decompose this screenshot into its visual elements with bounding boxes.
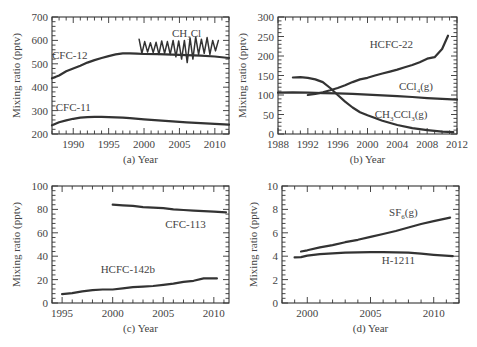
panel-b: 1988199219962000200420082012050100150200…: [236, 11, 468, 166]
plot-frame: [52, 186, 229, 303]
y-tick-label: 10: [267, 180, 279, 192]
series-label-cfc-11: CFC-11: [56, 101, 91, 113]
x-tick-label: 2012: [446, 138, 468, 150]
series-line-cfc-113: [113, 205, 226, 213]
x-tick-label: 1990: [62, 138, 85, 150]
y-tick-label: 4: [273, 250, 279, 262]
y-tick-label: 60: [37, 227, 49, 239]
x-tick-label: 2005: [168, 138, 191, 150]
x-tick-label: 2005: [152, 307, 175, 319]
panel-a: 19901995200020052010200300400500600700(a…: [10, 11, 229, 166]
series-label-hcfc-142b: HCFC-142b: [101, 263, 156, 275]
y-tick-label: 40: [37, 250, 49, 262]
panel-d: 2000200520100246810(d) YearMixing ratio …: [247, 180, 459, 335]
y-axis-label: Mixing ratio (pptv): [236, 33, 249, 118]
y-tick-label: 200: [258, 50, 275, 62]
series-label-cfc-12: CFC-12: [52, 49, 87, 61]
y-tick-label: 8: [273, 203, 279, 215]
y-axis-label: Mixing ratio (pptv): [10, 202, 23, 287]
x-tick-label: 1992: [297, 138, 319, 150]
y-tick-label: 0: [43, 297, 49, 309]
x-tick-label: 2008: [416, 138, 439, 150]
series-label-ccl4-g: CCl4(g): [399, 80, 433, 95]
series-label-sf6-g: SF6(g): [389, 206, 418, 221]
series-label-cfc-113: CFC-113: [165, 218, 206, 230]
x-tick-label: 2010: [204, 138, 227, 150]
panel-c: 1995200020052010020406080100(c) YearMixi…: [10, 180, 229, 335]
x-axis-label: (a) Year: [123, 153, 158, 166]
x-tick-label: 2000: [357, 138, 380, 150]
x-axis-label: (d) Year: [353, 322, 389, 335]
x-tick-label: 2010: [423, 307, 446, 319]
series-label-h-1211: H-1211: [382, 254, 415, 266]
y-tick-label: 2: [273, 274, 279, 286]
x-tick-label: 2000: [296, 307, 319, 319]
plot-frame: [282, 186, 459, 303]
series-line-hcfc-142b: [62, 278, 217, 294]
y-tick-label: 400: [32, 81, 49, 93]
x-tick-label: 2000: [133, 138, 156, 150]
y-tick-label: 80: [37, 203, 49, 215]
x-tick-label: 1996: [327, 138, 350, 150]
series-line-ccl4-g: [278, 92, 457, 99]
y-tick-label: 300: [258, 11, 275, 23]
y-tick-label: 0: [273, 297, 279, 309]
y-tick-label: 20: [37, 274, 49, 286]
x-tick-label: 2005: [360, 307, 383, 319]
y-tick-label: 500: [32, 58, 49, 70]
y-axis-label: Mixing ratio (pptv): [247, 202, 260, 287]
x-tick-label: 1995: [98, 138, 121, 150]
x-axis-label: (b) Year: [350, 153, 386, 166]
x-tick-label: 1995: [51, 307, 74, 319]
series-line-cfc-11: [52, 117, 229, 125]
plot-frame: [52, 17, 229, 134]
series-label-hcfc-22: HCFC-22: [370, 38, 413, 50]
y-tick-label: 600: [32, 34, 49, 46]
y-axis-label: Mixing ratio (pptv): [10, 33, 23, 118]
y-tick-label: 100: [32, 180, 49, 192]
x-tick-label: 2004: [386, 138, 409, 150]
y-tick-label: 6: [273, 227, 279, 239]
x-axis-label: (c) Year: [123, 322, 158, 335]
series-line-ch3cl: [139, 37, 218, 63]
y-tick-label: 250: [258, 31, 275, 43]
series-line-sf6-g: [301, 218, 450, 252]
y-tick-label: 150: [258, 70, 275, 82]
x-tick-label: 2000: [102, 307, 125, 319]
y-tick-label: 300: [32, 105, 49, 117]
y-tick-label: 0: [269, 128, 275, 140]
series-line-h-1211: [295, 252, 453, 257]
y-tick-label: 700: [32, 11, 49, 23]
y-tick-label: 50: [263, 109, 275, 121]
x-tick-label: 2010: [203, 307, 226, 319]
figure-canvas: 19901995200020052010200300400500600700(a…: [0, 0, 477, 347]
y-tick-label: 200: [32, 128, 49, 140]
y-tick-label: 100: [258, 89, 275, 101]
